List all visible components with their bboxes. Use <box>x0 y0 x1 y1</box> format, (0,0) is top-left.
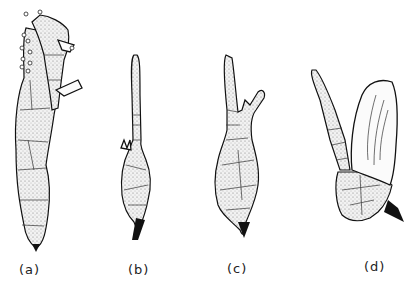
panel-a-drawing <box>15 10 82 252</box>
panel-b-drawing <box>121 55 150 240</box>
figure-illustration <box>0 0 419 286</box>
panel-label-d: (d) <box>364 259 385 274</box>
panel-label-b: (b) <box>128 262 149 277</box>
panel-label-c: (c) <box>227 261 247 276</box>
panel-label-a: (a) <box>19 262 40 277</box>
panel-d-drawing <box>311 70 404 222</box>
panel-c-drawing <box>215 55 265 238</box>
